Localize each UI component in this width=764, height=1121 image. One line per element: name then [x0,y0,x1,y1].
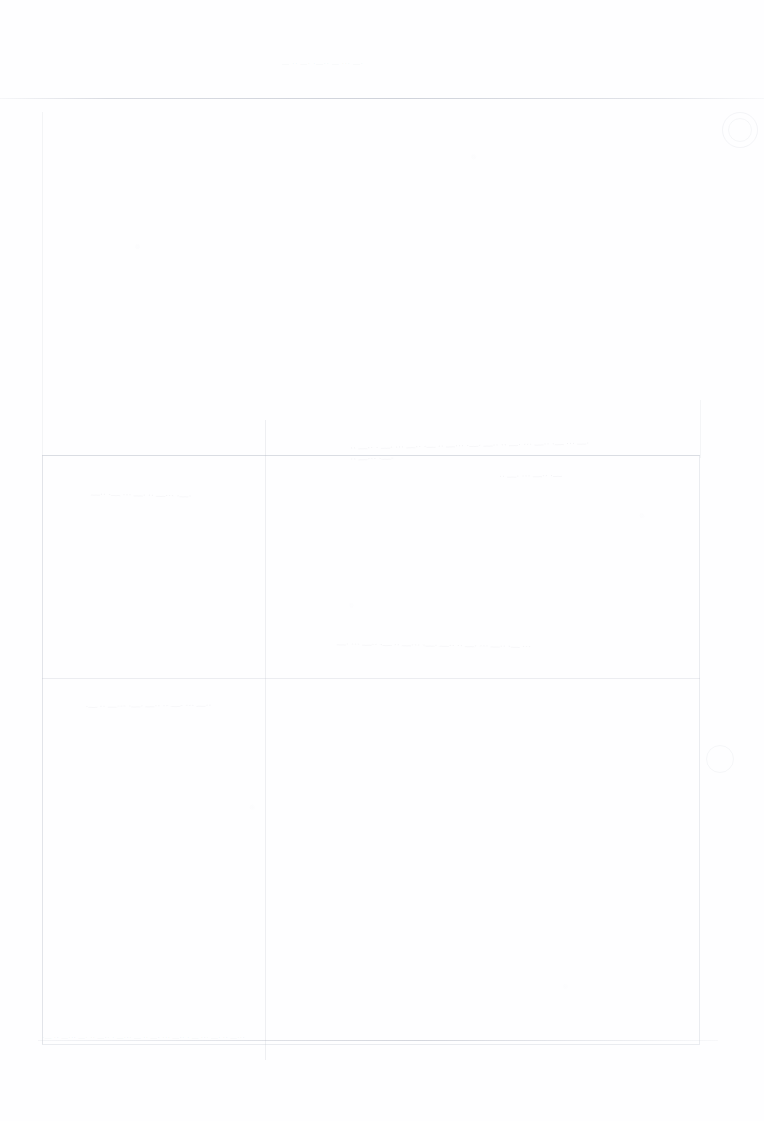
stamp-seal-icon [722,112,758,148]
header-divider-rule [0,98,764,99]
table-frame [42,455,700,1045]
left-margin-rule [42,112,43,456]
page-header-text: — ·· —· ·—·· — ··· —· [282,60,482,68]
table-row-divider-top [42,455,700,456]
footer-divider-rule [38,1040,718,1041]
table-row-divider-middle [42,678,700,679]
document-page: — ·· —· ·—·· — ··· —· —·· ·— ··· —· ·· —… [0,0,764,1121]
right-margin-rule [700,400,701,458]
table-column-divider [265,420,266,1060]
stamp-seal-secondary-icon [706,745,734,773]
